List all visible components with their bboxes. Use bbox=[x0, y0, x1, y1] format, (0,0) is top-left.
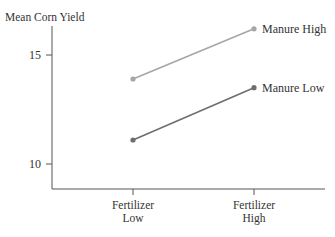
data-point bbox=[251, 26, 256, 31]
data-point bbox=[251, 85, 256, 90]
data-point bbox=[130, 137, 135, 142]
series-line bbox=[133, 88, 254, 140]
y-axis-label: Mean Corn Yield bbox=[5, 11, 85, 23]
x-tick-label: High bbox=[243, 212, 266, 225]
y-tick-label: 15 bbox=[29, 48, 41, 62]
x-tick-label: Fertilizer bbox=[233, 199, 275, 211]
y-tick-label: 10 bbox=[29, 157, 41, 171]
x-tick-label: Low bbox=[122, 212, 144, 224]
series-line bbox=[133, 29, 254, 79]
interaction-plot: 1015 FertilizerLowFertilizerHigh Manure … bbox=[0, 0, 335, 237]
series-label: Manure High bbox=[262, 22, 326, 36]
x-tick-label: Fertilizer bbox=[112, 199, 154, 211]
series-label: Manure Low bbox=[262, 81, 325, 95]
chart-svg: 1015 FertilizerLowFertilizerHigh Manure … bbox=[0, 0, 335, 237]
data-point bbox=[130, 76, 135, 81]
